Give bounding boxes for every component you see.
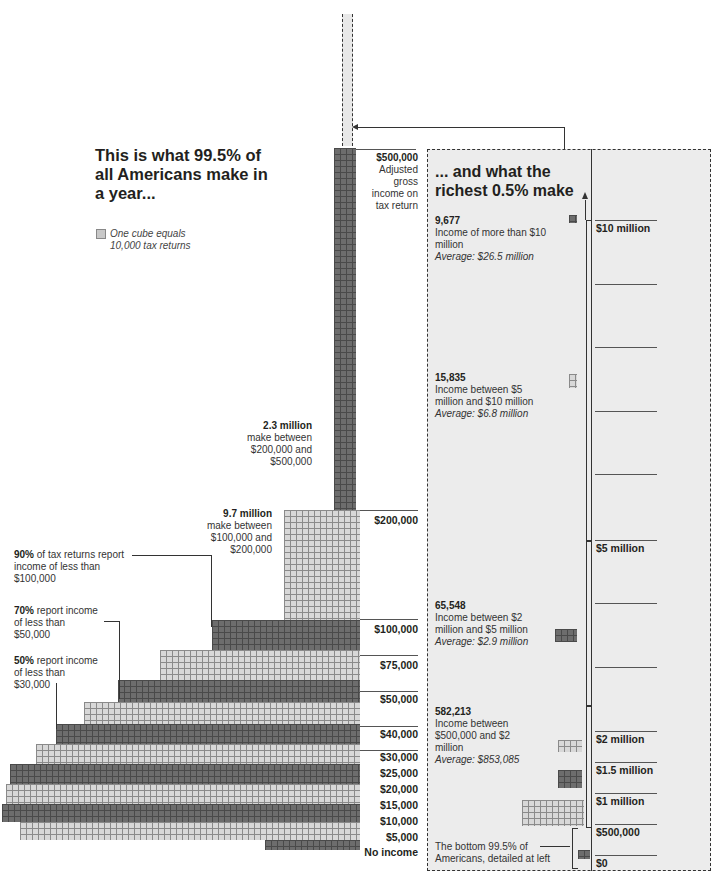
tick-1.5m: $1.5 million [596,764,653,776]
tick-75k: $75,000 [360,659,418,671]
annotation-9.7m: 9.7 millionmake between $100,000 and $20… [196,508,272,556]
right-axis [591,149,592,871]
annotation-50pct: 50% report income of less than $30,000 [14,655,104,691]
annotation-90pct: 90% of tax returns report income of less… [14,549,144,585]
cubes-1.5m-2m [558,740,582,752]
bar-15k-20k [10,764,360,784]
legend: One cube equals 10,000 tax returns [96,228,191,252]
tick-20k: $20,000 [360,783,418,795]
bottom-note: The bottom 99.5% of Americans, detailed … [435,841,555,865]
tick-200k: $200,000 [360,514,418,526]
cubes-bottom-995 [578,850,590,859]
group-5m-10m: 15,835Income between $5 million and $10 … [435,372,535,420]
group-500k-2m: 582,213Income between $500,000 and $2 mi… [435,706,535,766]
bar-30k-40k [84,702,360,724]
cubes-5m-10m [569,374,577,388]
tick-100k: $100,000 [360,623,418,635]
tick-2m: $2 million [596,733,644,745]
bar-5k-10k [2,804,360,822]
tick-30k: $30,000 [360,751,418,763]
cubes-500k-1m [522,800,584,826]
annotation-70pct: 70% report income of less than $50,000 [14,605,104,641]
tick-5k: $5,000 [360,831,418,843]
tick-10k: $10,000 [360,815,418,827]
connector-arrow [355,127,565,128]
bar-100k-200k [284,510,360,620]
tick-5m: $5 million [596,542,644,554]
bar-75k-100k [212,620,360,650]
cubes-over-10m [569,215,577,223]
tick-50k: $50,000 [360,693,418,705]
tick-15k: $15,000 [360,799,418,811]
tick-25k: $25,000 [360,767,418,779]
bar-200k-500k [334,148,356,510]
tick-no-income: No income [360,846,418,858]
arrowhead-icon [352,124,358,130]
cubes-1m-1.5m [558,770,582,788]
tick-0: $0 [596,857,608,869]
bar-20k-25k [36,744,360,764]
cube-icon [96,229,106,239]
tick-500k: $500,000 [596,826,640,838]
up-arrow-icon [582,192,588,199]
annotation-2.3m: 2.3 millionmake between $200,000 and $50… [230,420,312,468]
group-over-10m: 9,677Income of more than $10 millionAver… [435,215,575,263]
tick-1m: $1 million [596,795,644,807]
tick-10m: $10 million [596,222,650,234]
left-title: This is what 99.5% of all Americans make… [95,146,275,203]
bar-10k-15k [6,784,360,804]
bar-0-5k [20,822,360,840]
bar-25k-30k [56,724,360,744]
bar-no-income [265,840,360,850]
top-label: $500,000Adjusted gross income on tax ret… [360,152,418,212]
bar-50k-75k [160,650,360,680]
right-title: ... and what the richest 0.5% make [435,162,585,200]
bar-40k-50k [118,680,360,702]
group-2m-5m: 65,548Income between $2 million and $5 m… [435,600,535,648]
tick-40k: $40,000 [360,728,418,740]
cubes-2m-5m [555,629,577,642]
